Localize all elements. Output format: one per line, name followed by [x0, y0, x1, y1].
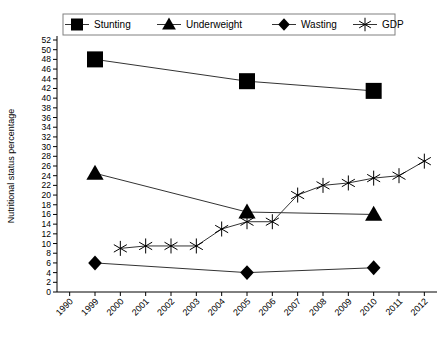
x-axis-ticks: 1990199920002001200220032004200520062007… — [54, 292, 430, 318]
series-line-wasting — [95, 263, 374, 273]
y-tick-label: 6 — [46, 258, 51, 268]
nutritional-status-chart: 0246810121416182022242628303234363840424… — [0, 0, 444, 341]
y-tick-label: 22 — [42, 180, 52, 190]
y-tick-label: 44 — [42, 74, 52, 84]
y-tick-label: 32 — [42, 132, 52, 142]
y-axis-ticks: 0246810121416182022242628303234363840424… — [42, 35, 57, 297]
y-tick-label: 4 — [46, 268, 51, 278]
legend-label-gdp: GDP — [382, 19, 404, 30]
x-tick-label: 2010 — [358, 296, 379, 317]
marker-asterisk-gdp-2012 — [418, 154, 431, 169]
y-tick-label: 38 — [42, 103, 52, 113]
y-tick-label: 50 — [42, 45, 52, 55]
chart-legend: StuntingUnderweightWastingGDP — [63, 14, 404, 35]
y-axis-title: Nutritional status percentage — [6, 109, 16, 224]
series-line-stunting — [95, 59, 374, 90]
y-tick-label: 16 — [42, 209, 52, 219]
y-tick-label: 14 — [42, 219, 52, 229]
y-tick-label: 8 — [46, 248, 51, 258]
legend-label-wasting: Wasting — [301, 19, 337, 30]
x-tick-label: 1999 — [79, 296, 100, 317]
series-line-underweight — [95, 173, 374, 214]
marker-diamond-wasting-2005 — [240, 265, 254, 280]
y-tick-label: 20 — [42, 190, 52, 200]
y-tick-label: 24 — [42, 171, 52, 181]
marker-diamond-wasting-2010 — [367, 260, 381, 275]
y-tick-label: 30 — [42, 142, 52, 152]
y-tick-label: 52 — [42, 35, 52, 45]
legend-label-underweight: Underweight — [186, 19, 242, 30]
y-tick-label: 18 — [42, 200, 52, 210]
y-tick-label: 34 — [42, 122, 52, 132]
x-tick-label: 2001 — [130, 296, 151, 317]
y-tick-label: 2 — [46, 277, 51, 287]
y-tick-label: 42 — [42, 83, 52, 93]
marker-asterisk-gdp-2004 — [215, 222, 228, 237]
x-tick-label: 2009 — [333, 296, 354, 317]
legend-label-stunting: Stunting — [94, 19, 131, 30]
y-tick-label: 26 — [42, 161, 52, 171]
series-line-gdp — [120, 161, 424, 248]
x-tick-label: 2012 — [409, 296, 430, 317]
x-tick-label: 2006 — [257, 296, 278, 317]
y-tick-label: 10 — [42, 239, 52, 249]
series-gdp — [114, 154, 431, 256]
x-tick-label: 2005 — [231, 296, 252, 317]
marker-square-legend-stunting — [71, 19, 83, 31]
marker-square-stunting-1999 — [87, 51, 103, 67]
series-underweight — [86, 165, 382, 221]
x-tick-label: 2000 — [105, 296, 126, 317]
marker-triangle-underweight-1999 — [86, 165, 103, 180]
x-tick-label: 2007 — [282, 296, 303, 317]
x-tick-label: 2004 — [206, 296, 227, 317]
marker-diamond-wasting-1999 — [88, 255, 102, 270]
y-tick-label: 40 — [42, 93, 52, 103]
x-tick-label: 2003 — [181, 296, 202, 317]
x-tick-label: 2008 — [307, 296, 328, 317]
x-tick-label: 1990 — [54, 296, 75, 317]
marker-square-stunting-2010 — [366, 83, 382, 99]
series-wasting — [88, 255, 380, 280]
y-tick-label: 12 — [42, 229, 52, 239]
x-tick-label: 2011 — [384, 296, 405, 317]
y-tick-label: 48 — [42, 54, 52, 64]
y-tick-label: 36 — [42, 113, 52, 123]
y-tick-label: 0 — [46, 287, 51, 297]
y-tick-label: 46 — [42, 64, 52, 74]
marker-triangle-underweight-2010 — [365, 206, 382, 221]
chart-canvas: 0246810121416182022242628303234363840424… — [0, 0, 444, 341]
y-tick-label: 28 — [42, 151, 52, 161]
marker-square-stunting-2005 — [239, 73, 255, 89]
series-stunting — [87, 51, 382, 98]
x-tick-label: 2002 — [155, 296, 176, 317]
